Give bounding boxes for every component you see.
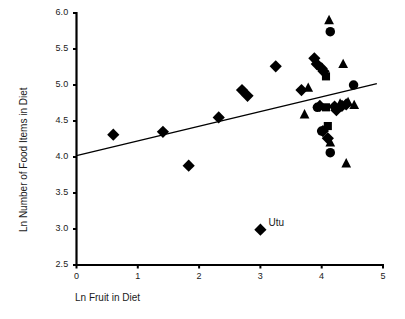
x-tick-label: 4 — [311, 271, 333, 281]
data-point-diamond — [213, 111, 225, 123]
x-tick-label: 0 — [66, 271, 88, 281]
data-point-diamond — [183, 160, 195, 172]
data-point-square — [324, 122, 332, 130]
x-tick-label: 3 — [249, 271, 271, 281]
data-point-circle — [326, 148, 336, 158]
data-point-diamond — [254, 224, 266, 236]
y-tick-label: 2.5 — [43, 259, 69, 269]
data-point-triangle — [300, 109, 310, 118]
x-tick-label: 2 — [188, 271, 210, 281]
y-tick-label: 3.5 — [43, 187, 69, 197]
data-point-circle — [349, 80, 359, 90]
y-tick-label: 4.5 — [43, 115, 69, 125]
y-tick-label: 5.0 — [43, 79, 69, 89]
data-point-triangle — [303, 82, 313, 91]
series-diamonds — [107, 52, 352, 236]
series-squares — [322, 72, 332, 130]
data-point-diamond — [270, 60, 282, 72]
scatter-chart: 2.53.03.54.04.55.05.56.0 012345 Utu Ln F… — [0, 0, 405, 319]
x-tick-label: 5 — [372, 271, 394, 281]
data-points-group — [107, 15, 359, 236]
y-tick-label: 4.0 — [43, 151, 69, 161]
series-triangles — [300, 15, 359, 168]
data-point-circle — [313, 103, 323, 113]
data-point-annotation: Utu — [269, 217, 285, 228]
y-tick-label: 5.5 — [43, 43, 69, 53]
x-axis-title: Ln Fruit in Diet — [75, 292, 140, 303]
axes-group — [73, 12, 384, 269]
data-point-triangle — [338, 59, 348, 68]
data-point-triangle — [341, 158, 351, 167]
data-point-circle — [326, 27, 336, 37]
data-point-square — [322, 103, 330, 111]
data-point-triangle — [324, 15, 334, 24]
y-tick-label: 6.0 — [43, 7, 69, 17]
y-tick-label: 3.0 — [43, 223, 69, 233]
data-point-diamond — [107, 129, 119, 141]
x-tick-label: 1 — [127, 271, 149, 281]
data-point-square — [322, 72, 330, 80]
series-circles — [313, 27, 359, 157]
y-axis-title: Ln Number of Food Items in Diet — [18, 87, 29, 232]
